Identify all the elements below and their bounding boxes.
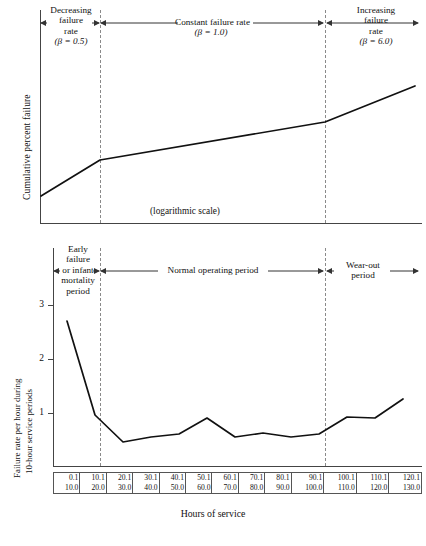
bottom-chart: Failure rate per hour during 10-hour ser…: [0, 236, 426, 546]
figure-root: Cumulative percent failure Decreasing: [0, 0, 426, 546]
x-axis-cell-to: 90.0: [265, 483, 291, 494]
x-axis-cell-to: 10.0: [54, 483, 80, 494]
x-axis-cell-to: 50.0: [159, 483, 185, 494]
x-axis-row-from: 0.1 10.1 20.1 30.1 40.1 50.1 60.1 70.1 8…: [54, 473, 422, 484]
x-axis-cell-from: 110.1: [356, 473, 389, 484]
x-axis-cell-from: 10.1: [80, 473, 106, 484]
bottom-curve-path: [67, 321, 403, 442]
bottom-x-axis-title: Hours of service: [0, 508, 426, 519]
x-axis-cell-from: 50.1: [186, 473, 212, 484]
x-axis-cell-to: 120.0: [356, 483, 389, 494]
x-axis-cell-to: 40.0: [133, 483, 159, 494]
x-axis-cell-from: 100.1: [324, 473, 357, 484]
x-axis-cell-to: 100.0: [291, 483, 324, 494]
top-logscale-note: (logarithmic scale): [150, 206, 220, 216]
x-axis-cell-from: 20.1: [106, 473, 132, 484]
top-chart: Cumulative percent failure Decreasing: [0, 0, 426, 232]
x-axis-cell-to: 30.0: [106, 483, 132, 494]
x-axis-row-to: 10.0 20.0 30.0 40.0 50.0 60.0 70.0 80.0 …: [54, 483, 422, 494]
x-axis-cell-to: 20.0: [80, 483, 106, 494]
x-axis-cell-from: 0.1: [54, 473, 80, 484]
top-curve: [0, 0, 426, 232]
x-axis-cell-to: 70.0: [212, 483, 238, 494]
x-axis-cell-from: 60.1: [212, 473, 238, 484]
x-axis-table: 0.1 10.1 20.1 30.1 40.1 50.1 60.1 70.1 8…: [53, 472, 422, 494]
x-axis-cell-from: 90.1: [291, 473, 324, 484]
x-axis-cell-to: 110.0: [324, 483, 357, 494]
x-axis-cell-to: 80.0: [238, 483, 264, 494]
x-axis-cell-from: 30.1: [133, 473, 159, 484]
bottom-curve: [0, 236, 426, 486]
x-axis-cell-to: 130.0: [389, 483, 422, 494]
x-axis-cell-from: 70.1: [238, 473, 264, 484]
x-axis-cell-from: 40.1: [159, 473, 185, 484]
x-axis-cell-to: 60.0: [186, 483, 212, 494]
x-axis-cell-from: 120.1: [389, 473, 422, 484]
x-axis-cell-from: 80.1: [265, 473, 291, 484]
